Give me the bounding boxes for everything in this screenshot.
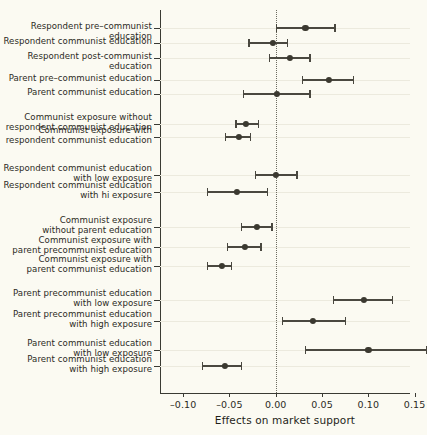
category-label: Communist exposure with parent precommun… [2,236,152,255]
ci-lower-cap [207,188,208,196]
ci-lower-cap [282,317,283,325]
point-estimate-marker [236,134,242,140]
ci-upper-cap [309,54,310,62]
zero-line [276,10,277,393]
x-axis-line [160,393,410,394]
category-label: Communist exposure with parent communist… [2,255,152,274]
ci-lower-cap [276,24,277,32]
category-label: Respondent post-communist education [2,52,152,71]
ci-lower-cap [333,296,334,304]
x-tick [368,393,369,397]
category-tick [154,247,160,248]
x-tick-label: 0.00 [265,399,287,410]
point-estimate-marker [325,77,331,83]
ci-lower-cap [207,262,208,270]
category-tick [154,366,160,367]
x-tick-label: –0.10 [170,399,196,410]
confidence-interval-bar [249,42,288,43]
category-tick [154,227,160,228]
category-label: Parent precommunist education with high … [2,310,152,329]
x-tick-label: –0.05 [216,399,242,410]
point-estimate-marker [222,363,228,369]
x-axis-title: Effects on market support [160,414,410,426]
category-tick [154,321,160,322]
point-estimate-marker [361,297,367,303]
point-estimate-marker [287,55,293,61]
category-tick [154,94,160,95]
ci-lower-cap [248,39,249,47]
ci-upper-cap [392,296,393,304]
category-label: Respondent communist education [2,37,152,47]
category-label: Parent communist education [2,88,152,98]
category-label: Parent pre–communist education [2,74,152,84]
category-tick [154,266,160,267]
point-estimate-marker [234,189,240,195]
category-label: Respondent communist education with hi e… [2,181,152,200]
x-tick-label: 0.15 [404,399,426,410]
category-label: Communist exposure with respondent commu… [2,126,152,145]
gridline [160,366,410,367]
point-estimate-marker [254,224,260,230]
gridline [160,80,410,81]
category-label: Parent precommunist education with low e… [2,289,152,308]
gridline [160,227,410,228]
ci-upper-cap [271,223,272,231]
category-tick [154,28,160,29]
ci-lower-cap [255,171,256,179]
ci-upper-cap [334,24,335,32]
gridline [160,124,410,125]
category-tick [154,192,160,193]
point-estimate-marker [243,121,249,127]
category-tick [154,124,160,125]
ci-upper-cap [258,120,259,128]
gridline [160,247,410,248]
category-tick [154,350,160,351]
x-tick-label: 0.05 [311,399,333,410]
ci-upper-cap [353,76,354,84]
category-tick [154,300,160,301]
ci-upper-cap [250,133,251,141]
ci-upper-cap [296,171,297,179]
category-label: Communist exposure without parent educat… [2,216,152,235]
point-estimate-marker [274,91,280,97]
gridline [160,266,410,267]
ci-lower-cap [269,54,270,62]
ci-lower-cap [202,362,203,370]
category-tick [154,175,160,176]
ci-upper-cap [267,188,268,196]
ci-lower-cap [235,120,236,128]
x-tick [322,393,323,397]
gridline [160,192,410,193]
ci-upper-cap [287,39,288,47]
point-estimate-marker [242,244,248,250]
ci-upper-cap [345,317,346,325]
point-estimate-marker [273,172,279,178]
ci-lower-cap [225,133,226,141]
category-tick [154,58,160,59]
point-estimate-marker [302,25,308,31]
point-estimate-marker [310,318,316,324]
point-estimate-marker [219,263,225,269]
gridline [160,137,410,138]
x-tick [229,393,230,397]
ci-upper-cap [260,243,261,251]
ci-upper-cap [231,262,232,270]
category-tick [154,43,160,44]
ci-upper-cap [309,90,310,98]
ci-lower-cap [305,346,306,354]
ci-lower-cap [302,76,303,84]
point-estimate-marker [365,347,371,353]
category-tick [154,137,160,138]
category-label: Parent communist education with high exp… [2,355,152,374]
ci-lower-cap [241,223,242,231]
x-tick [276,393,277,397]
y-axis-line [160,10,161,393]
ci-lower-cap [227,243,228,251]
ci-lower-cap [243,90,244,98]
category-tick [154,80,160,81]
x-tick [415,393,416,397]
ci-upper-cap [241,362,242,370]
x-tick-label: 0.10 [358,399,380,410]
x-tick [183,393,184,397]
